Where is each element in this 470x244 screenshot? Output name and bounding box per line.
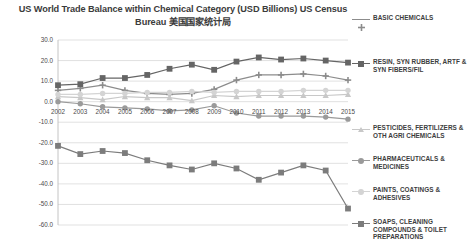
- legend-marker-icon: [352, 156, 370, 165]
- data-point-marker: [323, 168, 329, 174]
- data-point-marker: [345, 206, 351, 212]
- data-point-marker: [55, 82, 61, 88]
- legend-label: RESIN, SYN RUBBER, ARTF & SYN FIBERS/FIL: [373, 58, 469, 73]
- data-point-marker: [144, 72, 150, 78]
- data-point-marker: [167, 162, 173, 168]
- legend-label: BASIC CHEMICALS: [373, 14, 433, 22]
- y-axis-tick-label: -10.0: [25, 118, 53, 125]
- data-point-marker: [55, 92, 60, 97]
- data-point-marker: [189, 89, 194, 94]
- data-point-marker: [278, 89, 283, 94]
- data-point-marker: [345, 116, 350, 121]
- data-point-marker: [100, 91, 105, 96]
- data-point-marker: [345, 88, 350, 93]
- chart-container: US World Trade Balance within Chemical C…: [0, 0, 470, 244]
- y-axis-tick-label: -20.0: [25, 139, 53, 146]
- data-point-marker: [211, 90, 216, 95]
- y-axis-tick-label: 0.0: [25, 98, 53, 105]
- data-point-marker: [234, 59, 240, 65]
- legend-item[interactable]: SOAPS, CLEANING COMPOUNDS & TOILET PREPA…: [352, 218, 469, 241]
- data-point-marker: [100, 148, 106, 154]
- data-point-marker: [100, 75, 106, 81]
- data-point-marker: [167, 90, 172, 95]
- data-point-marker: [301, 88, 306, 93]
- y-axis-tick-label: -50.0: [25, 200, 53, 207]
- data-point-marker: [167, 66, 173, 72]
- chart-legend: BASIC CHEMICALSRESIN, SYN RUBBER, ARTF &…: [352, 6, 470, 244]
- legend-label: PAINTS, COATINGS & ADHESIVES: [373, 186, 469, 201]
- y-axis-tick-label: 20.0: [25, 57, 53, 64]
- data-point-marker: [323, 88, 328, 93]
- data-point-marker: [300, 56, 306, 62]
- legend-marker-icon: [352, 187, 370, 196]
- data-point-marker: [77, 151, 83, 157]
- legend-marker-icon: [352, 15, 370, 24]
- y-axis-tick-label: 30.0: [25, 36, 53, 43]
- data-point-marker: [323, 58, 329, 64]
- data-point-marker: [345, 60, 351, 66]
- series-1: [55, 55, 351, 89]
- data-point-marker: [211, 160, 217, 166]
- legend-label: PHARMACEUTICALS & MEDICINES: [373, 155, 469, 170]
- legend-marker-icon: [352, 59, 370, 68]
- legend-item[interactable]: PAINTS, COATINGS & ADHESIVES: [352, 186, 469, 201]
- legend-item[interactable]: PHARMACEUTICALS & MEDICINES: [352, 155, 469, 170]
- data-point-marker: [122, 91, 127, 96]
- series-line: [58, 146, 348, 209]
- data-point-marker: [145, 90, 150, 95]
- data-point-marker: [189, 62, 195, 68]
- data-point-marker: [122, 150, 128, 156]
- series-5: [55, 143, 351, 211]
- data-point-marker: [256, 89, 261, 94]
- y-axis-tick-label: -60.0: [25, 221, 53, 228]
- data-point-marker: [278, 72, 284, 78]
- legend-marker-icon: [352, 219, 370, 228]
- data-point-marker: [233, 77, 239, 83]
- y-axis-tick-label: -30.0: [25, 159, 53, 166]
- data-point-marker: [122, 75, 128, 81]
- legend-item[interactable]: RESIN, SYN RUBBER, ARTF & SYN FIBERS/FIL: [352, 58, 469, 73]
- data-point-marker: [234, 89, 239, 94]
- data-point-marker: [144, 157, 150, 163]
- data-point-marker: [78, 101, 83, 106]
- data-point-marker: [278, 57, 284, 63]
- y-axis-tick-label: 10.0: [25, 77, 53, 84]
- data-point-marker: [55, 143, 61, 149]
- data-point-marker: [211, 67, 217, 73]
- data-point-marker: [189, 167, 195, 173]
- data-point-marker: [322, 73, 328, 79]
- data-point-marker: [256, 72, 262, 78]
- data-point-marker: [345, 77, 351, 83]
- data-point-marker: [55, 99, 60, 104]
- legend-item[interactable]: PESTICIDES, FERTILIZERS & OTH AGRI CHEMI…: [352, 124, 469, 139]
- y-axis-tick-label: -40.0: [25, 180, 53, 187]
- data-point-marker: [300, 162, 306, 168]
- data-point-marker: [99, 82, 105, 88]
- data-point-marker: [78, 92, 83, 97]
- legend-marker-icon: [352, 125, 370, 134]
- data-point-marker: [77, 81, 83, 87]
- data-point-marker: [234, 166, 240, 172]
- legend-item[interactable]: BASIC CHEMICALS: [352, 14, 433, 24]
- data-point-marker: [323, 114, 328, 119]
- legend-label: PESTICIDES, FERTILIZERS & OTH AGRI CHEMI…: [373, 124, 469, 139]
- legend-label: SOAPS, CLEANING COMPOUNDS & TOILET PREPA…: [373, 218, 469, 241]
- series-layer: [55, 55, 351, 212]
- data-point-marker: [256, 177, 262, 183]
- data-point-marker: [278, 170, 284, 176]
- data-point-marker: [300, 71, 306, 77]
- data-point-marker: [256, 55, 262, 61]
